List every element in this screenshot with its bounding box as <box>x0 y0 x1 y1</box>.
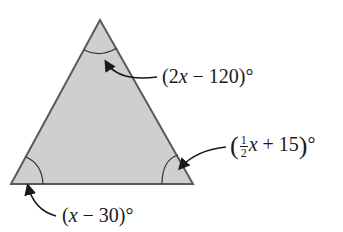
triangle <box>11 20 193 184</box>
one-half-fraction: 12 <box>240 134 248 159</box>
top-angle-label: (2x − 120)° <box>162 66 254 86</box>
triangle-diagram <box>0 0 343 232</box>
bottom-right-angle-label: (12x + 15)° <box>230 133 316 159</box>
bottom-left-angle-label: (x − 30)° <box>62 205 134 225</box>
bottom-right-angle-arrow <box>180 147 226 168</box>
bottom-left-angle-arrow <box>28 186 56 216</box>
